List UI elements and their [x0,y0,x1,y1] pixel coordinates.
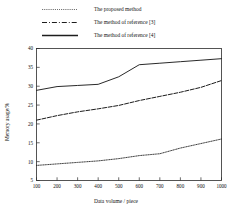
y-tick-label: 10 [28,159,34,165]
legend-sample-dotted-icon [42,5,78,14]
legend-label-proposed-method: The proposed method [94,6,141,13]
y-axis-title: Memory usage/% [4,102,10,141]
series-line-0 [37,139,222,165]
y-tick-label: 25 [28,102,34,108]
x-tick-label: 500 [115,183,123,189]
x-tick-label: 200 [53,183,61,189]
plot-area: Memory usage/% 510152025303540 100200300… [0,40,232,200]
x-tick-label: 900 [197,183,205,189]
y-tick-label: 15 [28,140,34,146]
y-axis-tick-labels: 510152025303540 [28,45,34,183]
legend-entry-proposed-method: The proposed method [42,4,141,15]
caption-sliver [0,212,232,219]
data-series-group [37,59,222,166]
x-tick-label: 800 [177,183,185,189]
legend-entry-reference-3: The method of reference [3] [42,17,155,28]
y-tick-label: 20 [28,121,34,127]
x-axis-title: Data volume / piece [0,198,232,204]
x-tick-label: 300 [74,183,82,189]
y-tick-label: 35 [28,64,34,70]
x-tick-label: 700 [156,183,164,189]
chart-legend: The proposed method The method of refere… [0,0,232,42]
plot-svg: Memory usage/% 510152025303540 100200300… [0,40,232,200]
legend-sample-dashdot-icon [42,18,78,27]
x-axis-tick-labels: 1002003004005006007008009001000 [33,183,227,189]
legend-sample-solid-icon [42,31,78,40]
y-tick-label: 30 [28,83,34,89]
legend-label-reference-3: The method of reference [3] [94,19,155,26]
memory-usage-line-chart: The proposed method The method of refere… [0,0,232,219]
x-tick-label: 600 [135,183,143,189]
x-tick-label: 1000 [216,183,227,189]
x-tick-label: 100 [33,183,41,189]
x-tick-label: 400 [94,183,102,189]
y-tick-label: 40 [28,45,34,51]
series-line-2 [37,59,222,91]
legend-label-reference-4: The method of reference [4] [94,32,155,39]
